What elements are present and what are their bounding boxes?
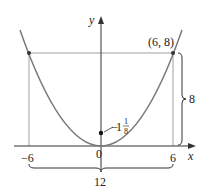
height-label: 8: [189, 92, 195, 106]
tick-label-neg6: −6: [21, 151, 34, 165]
focus-point: [99, 131, 103, 135]
point-neg6-8: [27, 51, 31, 55]
focus-label-whole: 1: [116, 120, 122, 134]
y-axis-arrow-icon: [98, 16, 104, 24]
height-brace: [178, 53, 186, 145]
point-6-8: [171, 51, 175, 55]
y-axis-label: y: [88, 13, 95, 27]
width-label: 12: [94, 175, 106, 189]
tick-label-pos6: 6: [170, 151, 176, 165]
focus-label-denominator: 8: [124, 127, 128, 136]
tick-label-zero: 0: [96, 147, 102, 161]
parabola-diagram: – 1 1 8 y x (6, 8) −6 0 6 8 12: [0, 0, 211, 194]
focus-label-numerator: 1: [124, 117, 128, 126]
point-label: (6, 8): [148, 35, 174, 49]
x-axis-label: x: [187, 149, 194, 163]
